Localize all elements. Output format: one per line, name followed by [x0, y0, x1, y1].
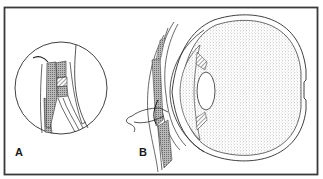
lens — [197, 72, 215, 110]
panel-label-a: A — [15, 146, 23, 158]
panel-label-b: B — [139, 146, 147, 158]
eye-anatomy-figure — [0, 0, 323, 179]
inset-a — [15, 42, 107, 134]
